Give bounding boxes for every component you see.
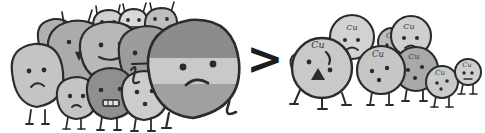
leg [370, 92, 372, 105]
eye-dot [42, 68, 47, 73]
eye-dot [385, 66, 389, 70]
cu-sphere-7: Cu [426, 66, 458, 107]
eye-dot [135, 90, 140, 95]
leg [294, 90, 300, 104]
eye-dot [343, 38, 347, 42]
mouth-dot [143, 102, 148, 107]
leg [342, 93, 346, 105]
eye-dot [137, 18, 141, 22]
cu-label: Cu [311, 39, 324, 50]
cu-label: Cu [403, 22, 414, 31]
eye-dot [67, 40, 72, 45]
eye-dot [445, 79, 449, 83]
right-group-cu-cluster: Cu Cu Cu [290, 15, 481, 109]
eye-dot [402, 36, 406, 40]
cu-label: Cu [346, 23, 357, 32]
eye-dot [165, 17, 169, 21]
leg [29, 110, 31, 124]
eye-dot [307, 60, 312, 65]
eye-dot [415, 36, 419, 40]
greater-than-symbol: > [247, 33, 284, 84]
eye-dot [356, 38, 360, 42]
eye-dot [27, 69, 32, 74]
eye-dot [153, 17, 157, 21]
eye-dot [99, 43, 104, 48]
leg [134, 118, 136, 131]
eye-dot [462, 71, 465, 74]
cu-label: Cu [435, 69, 445, 77]
cu-label: Cu [372, 49, 384, 59]
eye-dot [370, 69, 374, 73]
eye-dot [470, 71, 473, 74]
left-rock-1 [12, 44, 64, 124]
left-group-rock-cluster [12, 2, 250, 131]
eye-dot [126, 18, 130, 22]
eye-dot [210, 61, 217, 68]
eye-dot [180, 64, 187, 71]
eye-dot [133, 51, 138, 56]
mouth-dot [377, 78, 381, 82]
eye-dot [435, 81, 439, 85]
cu-label: Cu [462, 61, 471, 69]
antenna-icon [88, 10, 92, 23]
leg [100, 117, 102, 130]
mouth-dot [439, 87, 442, 90]
eye-dot [99, 88, 104, 93]
illustration-canvas: > Cu Cu Cu [0, 0, 485, 133]
mouth-grimace [103, 100, 119, 106]
cu-sphere-3: Cu [357, 46, 405, 105]
eye-dot [420, 65, 424, 69]
blob-body [12, 44, 64, 107]
eye-dot [81, 94, 85, 98]
cartoon-comparison-illustration: > Cu Cu Cu [0, 0, 485, 133]
antenna-icon [96, 6, 97, 14]
leg [461, 84, 463, 94]
leg [66, 117, 68, 129]
comparison-symbol-group: > [247, 33, 284, 84]
cu-label: Cu [408, 52, 419, 61]
leg [166, 113, 169, 128]
cu-sphere-8-lone: Cu [455, 59, 481, 94]
eye-dot [68, 94, 72, 98]
mouth-dot [413, 76, 417, 80]
cu-sphere-1-hero: Cu [290, 38, 352, 109]
eye-dot [328, 68, 333, 73]
eye-dot [406, 68, 410, 72]
